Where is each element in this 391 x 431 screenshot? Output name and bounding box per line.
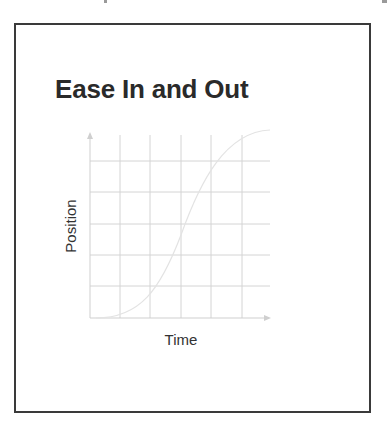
x-axis-label: Time <box>165 331 198 348</box>
axes <box>90 138 264 318</box>
y-axis-label: Position <box>62 199 79 252</box>
y-axis-arrow-icon <box>87 132 93 139</box>
grid-horizontal-lines <box>90 161 270 286</box>
x-axis-arrow-icon <box>264 315 271 321</box>
ease-curve-chart <box>0 0 391 431</box>
grid-vertical-lines <box>120 135 242 318</box>
